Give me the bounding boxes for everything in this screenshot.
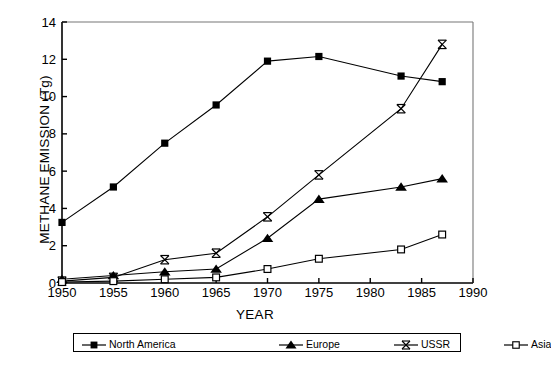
open-square-icon [504, 338, 528, 350]
legend-label: North America [109, 338, 176, 350]
legend: North AmericaEuropeUSSRAsia [73, 333, 461, 352]
series-ussr [58, 40, 447, 285]
legend-label: Asia [531, 338, 551, 350]
series-asia [59, 231, 446, 285]
legend-item-north-america[interactable]: North America [82, 334, 176, 353]
filled-square-icon [82, 338, 106, 350]
legend-item-europe[interactable]: Europe [279, 334, 340, 353]
legend-label: Europe [306, 338, 340, 350]
legend-label: USSR [421, 338, 450, 350]
filled-triangle-icon [279, 338, 303, 350]
series-north-america [58, 53, 445, 226]
cross-bar-icon [394, 338, 418, 350]
legend-item-asia[interactable]: Asia [504, 334, 551, 353]
legend-item-ussr[interactable]: USSR [394, 334, 450, 353]
